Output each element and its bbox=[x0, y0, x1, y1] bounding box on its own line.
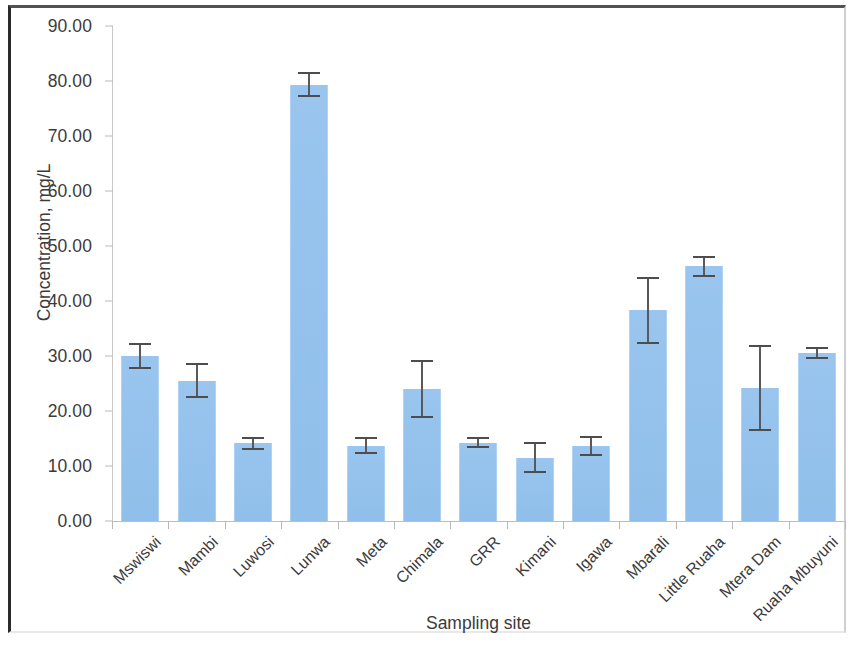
error-bar bbox=[806, 347, 828, 359]
error-bar bbox=[186, 363, 208, 398]
error-bar-cap-bottom bbox=[186, 396, 208, 398]
bar-group bbox=[563, 0, 619, 521]
bar bbox=[798, 353, 835, 521]
error-bar bbox=[411, 360, 433, 417]
y-axis-title: Concentration, mg/L bbox=[34, 13, 55, 473]
error-bar bbox=[749, 345, 771, 431]
error-bar bbox=[467, 437, 489, 448]
x-axis-tick-mark bbox=[112, 521, 113, 529]
error-bar-line bbox=[759, 345, 761, 431]
error-bar-cap-bottom bbox=[637, 342, 659, 344]
error-bar-line bbox=[196, 363, 198, 398]
bar-group bbox=[281, 0, 337, 521]
error-bar-cap-bottom bbox=[298, 95, 320, 97]
x-axis-tick-mark bbox=[619, 521, 620, 529]
x-axis-tick-mark bbox=[676, 521, 677, 529]
error-bar-cap-top bbox=[298, 72, 320, 74]
bar-group bbox=[676, 0, 732, 521]
error-bar-cap-bottom bbox=[355, 452, 377, 454]
error-bar-cap-top bbox=[749, 345, 771, 347]
error-bar bbox=[298, 72, 320, 97]
x-axis-tick-mark bbox=[563, 521, 564, 529]
bar-group bbox=[789, 0, 845, 521]
error-bar-line bbox=[139, 343, 141, 368]
error-bar-cap-top bbox=[693, 256, 715, 258]
bars-layer bbox=[112, 0, 845, 521]
error-bar-cap-top bbox=[129, 343, 151, 345]
x-axis-tick-mark bbox=[168, 521, 169, 529]
error-bar-cap-bottom bbox=[129, 367, 151, 369]
bar-group bbox=[225, 0, 281, 521]
error-bar bbox=[580, 436, 602, 456]
x-axis-tick-mark bbox=[845, 521, 846, 529]
error-bar-cap-bottom bbox=[749, 429, 771, 431]
error-bar-cap-bottom bbox=[580, 454, 602, 456]
bar-group bbox=[450, 0, 506, 521]
error-bar-cap-bottom bbox=[242, 448, 264, 450]
x-axis-line bbox=[112, 521, 845, 522]
bar bbox=[460, 443, 497, 521]
bar-group bbox=[619, 0, 675, 521]
error-bar-cap-bottom bbox=[524, 471, 546, 473]
error-bar-line bbox=[308, 72, 310, 97]
error-bar-cap-top bbox=[242, 437, 264, 439]
bar-group bbox=[732, 0, 788, 521]
error-bar-cap-top bbox=[524, 442, 546, 444]
bar bbox=[573, 446, 610, 521]
x-axis-tick-mark bbox=[281, 521, 282, 529]
error-bar-line bbox=[647, 277, 649, 344]
error-bar bbox=[693, 256, 715, 277]
bar-group bbox=[507, 0, 563, 521]
x-axis-tick-mark bbox=[394, 521, 395, 529]
bar-chart: 90.0080.0070.0060.0050.0040.0030.0020.00… bbox=[0, 0, 852, 651]
x-axis-tick-mark bbox=[732, 521, 733, 529]
error-bar-line bbox=[534, 442, 536, 473]
error-bar-cap-bottom bbox=[693, 275, 715, 277]
x-axis-tick-mark bbox=[225, 521, 226, 529]
error-bar-cap-top bbox=[580, 436, 602, 438]
bar bbox=[122, 356, 159, 521]
error-bar bbox=[637, 277, 659, 344]
x-axis-tick-mark bbox=[789, 521, 790, 529]
error-bar-cap-top bbox=[355, 437, 377, 439]
error-bar-cap-top bbox=[806, 347, 828, 349]
error-bar-cap-top bbox=[637, 277, 659, 279]
error-bar bbox=[524, 442, 546, 473]
x-axis-title: Sampling site bbox=[112, 613, 845, 634]
error-bar-line bbox=[421, 360, 423, 417]
bar bbox=[178, 381, 215, 521]
bar bbox=[291, 85, 328, 521]
error-bar-cap-top bbox=[186, 363, 208, 365]
x-axis-tick-mark bbox=[507, 521, 508, 529]
bar-group bbox=[112, 0, 168, 521]
error-bar bbox=[129, 343, 151, 368]
error-bar-cap-top bbox=[467, 437, 489, 439]
error-bar bbox=[242, 437, 264, 450]
error-bar-cap-bottom bbox=[411, 416, 433, 418]
error-bar-cap-bottom bbox=[806, 357, 828, 359]
x-axis-tick-mark bbox=[450, 521, 451, 529]
bar bbox=[234, 443, 271, 521]
x-axis-tick-mark bbox=[338, 521, 339, 529]
bar bbox=[347, 446, 384, 521]
bar bbox=[686, 266, 723, 521]
error-bar bbox=[355, 437, 377, 454]
bar-group bbox=[394, 0, 450, 521]
y-axis-tick-label: 0.00 bbox=[0, 511, 92, 532]
bar-group bbox=[338, 0, 394, 521]
error-bar-cap-bottom bbox=[467, 446, 489, 448]
error-bar-line bbox=[703, 256, 705, 277]
error-bar-cap-top bbox=[411, 360, 433, 362]
bar-group bbox=[168, 0, 224, 521]
